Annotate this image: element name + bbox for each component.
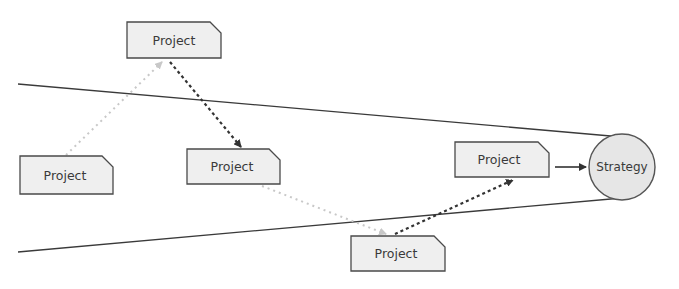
node-strategy[interactable]: Strategy xyxy=(589,134,655,200)
strategy-funnel-diagram: Project Project Project Project Project … xyxy=(0,0,679,289)
node-label: Project xyxy=(153,33,196,48)
node-project-right[interactable]: Project xyxy=(455,142,549,177)
node-project-top[interactable]: Project xyxy=(127,22,221,58)
funnel-bottom-line xyxy=(18,198,622,252)
edge-middle-to-bottom xyxy=(262,186,386,234)
node-label: Project xyxy=(44,168,87,183)
node-project-left[interactable]: Project xyxy=(20,156,113,194)
node-label: Project xyxy=(211,159,254,174)
node-project-bottom[interactable]: Project xyxy=(351,236,445,271)
edge-left-to-top xyxy=(66,62,162,155)
node-label: Project xyxy=(375,246,418,261)
edge-top-to-middle xyxy=(170,62,241,147)
edge-bottom-to-right xyxy=(395,180,513,234)
node-project-middle[interactable]: Project xyxy=(187,149,280,184)
node-label: Strategy xyxy=(596,160,647,174)
node-label: Project xyxy=(478,152,521,167)
funnel-top-line xyxy=(18,84,622,137)
